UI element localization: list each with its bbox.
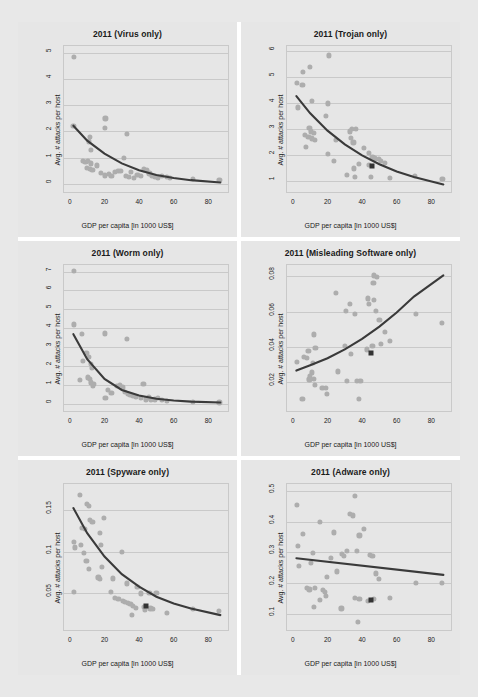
y-tick-label: 3 [37,341,59,348]
y-tick-label: 5 [37,303,59,310]
y-axis-label-adware: Avg. # attacks per host [277,532,284,603]
y-tick-text: 1 [268,168,275,190]
y-tick-text: 6 [268,38,275,60]
y-tick-text: 2 [45,352,52,374]
panel-title-worm: 2011 (Worm only) [18,248,237,258]
y-tick-label: 0.5 [260,485,282,492]
panel-virus: 2011 (Virus only)Avg. # attacks per host… [18,22,237,237]
y-tick-text: 5 [45,39,52,61]
x-tick-label: 60 [385,417,409,424]
panel-trojan: 2011 (Trojan only)Avg. # attacks per hos… [241,22,460,237]
y-tick-text: 0 [45,170,52,192]
x-axis-label-trojan: GDP per capita [in 1000 US$] [241,222,460,229]
panel-title-spyware: 2011 (Spyware only) [18,467,237,477]
y-tick-label: 0.05 [37,587,59,594]
y-tick-text: 2 [268,142,275,164]
y-tick-text: 4 [268,90,275,112]
x-tick-label: 0 [281,636,305,643]
highlight-marker [368,350,373,355]
x-tick-label: 40 [350,636,374,643]
x-tick-label: 20 [93,417,117,424]
panel-spyware: 2011 (Spyware only)Avg. # attacks per ho… [18,460,237,675]
x-tick-label: 20 [93,198,117,205]
y-tick-label: 5 [37,47,59,54]
y-tick-text: 7 [45,258,52,280]
y-tick-label: 0 [37,398,59,405]
y-tick-label: 0.06 [260,306,282,313]
y-tick-label: 0.2 [260,577,282,584]
plot-area-spyware: 0.050.10.15020406080 [63,483,229,631]
x-tick-label: 80 [196,417,220,424]
y-tick-label: 5 [260,71,282,78]
y-tick-text: 0.3 [268,539,275,561]
x-tick-label: 20 [316,636,340,643]
y-tick-label: 7 [37,266,59,273]
x-tick-label: 60 [385,636,409,643]
x-tick-label: 20 [93,636,117,643]
y-tick-text: 3 [45,92,52,114]
plot-area-adware: 0.10.20.30.40.5020406080 [286,483,452,631]
y-tick-text: 3 [268,116,275,138]
x-axis-label-spyware: GDP per capita [in 1000 US$] [18,660,237,667]
y-tick-label: 6 [37,284,59,291]
y-tick-label: 4 [37,322,59,329]
y-tick-text: 0.02 [268,369,275,391]
panel-worm: 2011 (Worm only)Avg. # attacks per hostG… [18,241,237,456]
y-tick-text: 5 [45,296,52,318]
y-tick-text: 0.2 [268,570,275,592]
x-tick-label: 40 [127,636,151,643]
x-tick-label: 40 [127,198,151,205]
y-tick-label: 0.1 [37,546,59,553]
x-axis-label-adware: GDP per capita [in 1000 US$] [241,660,460,667]
y-tick-label: 0.15 [37,504,59,511]
trend-path [296,558,443,575]
trend-path [73,126,220,183]
y-tick-text: 0.1 [268,601,275,623]
x-tick-label: 60 [162,636,186,643]
x-tick-label: 40 [350,417,374,424]
x-axis-label-worm: GDP per capita [in 1000 US$] [18,441,237,448]
trend-line-worm [63,264,229,412]
x-tick-label: 80 [419,636,443,643]
y-tick-label: 0.02 [260,376,282,383]
x-tick-label: 40 [350,198,374,205]
x-tick-label: 80 [196,636,220,643]
x-tick-label: 80 [419,198,443,205]
y-tick-label: 0.1 [260,608,282,615]
y-tick-text: 2 [45,118,52,140]
x-tick-label: 80 [196,198,220,205]
y-tick-label: 6 [260,45,282,52]
y-tick-label: 4 [260,97,282,104]
y-tick-label: 0.3 [260,546,282,553]
highlight-marker [369,164,374,169]
panel-title-adware: 2011 (Adware only) [241,467,460,477]
y-tick-label: 4 [37,73,59,80]
y-tick-text: 0.08 [268,263,275,285]
x-tick-label: 0 [58,417,82,424]
x-tick-label: 40 [127,417,151,424]
y-tick-text: 4 [45,66,52,88]
x-tick-label: 20 [316,417,340,424]
y-tick-text: 0.04 [268,333,275,355]
trend-path [73,508,220,615]
trend-line-adware [286,483,452,631]
highlight-marker [368,597,373,602]
y-tick-label: 2 [37,360,59,367]
x-tick-label: 60 [162,417,186,424]
y-tick-text: 3 [45,333,52,355]
y-tick-label: 0 [37,178,59,185]
y-tick-text: 5 [268,64,275,86]
plot-area-trojan: 123456020406080 [286,45,452,193]
y-tick-text: 0.15 [45,496,52,518]
trend-line-misleading_software [286,264,452,412]
y-tick-text: 1 [45,144,52,166]
panel-title-virus: 2011 (Virus only) [18,29,237,39]
x-tick-label: 0 [58,636,82,643]
x-axis-label-virus: GDP per capita [in 1000 US$] [18,222,237,229]
y-tick-label: 2 [37,125,59,132]
trend-path [73,334,220,402]
panel-title-misleading_software: 2011 (Misleading Software only) [241,248,460,258]
panel-adware: 2011 (Adware only)Avg. # attacks per hos… [241,460,460,675]
plot-area-worm: 01234567020406080 [63,264,229,412]
panel-misleading_software: 2011 (Misleading Software only)Avg. # at… [241,241,460,456]
